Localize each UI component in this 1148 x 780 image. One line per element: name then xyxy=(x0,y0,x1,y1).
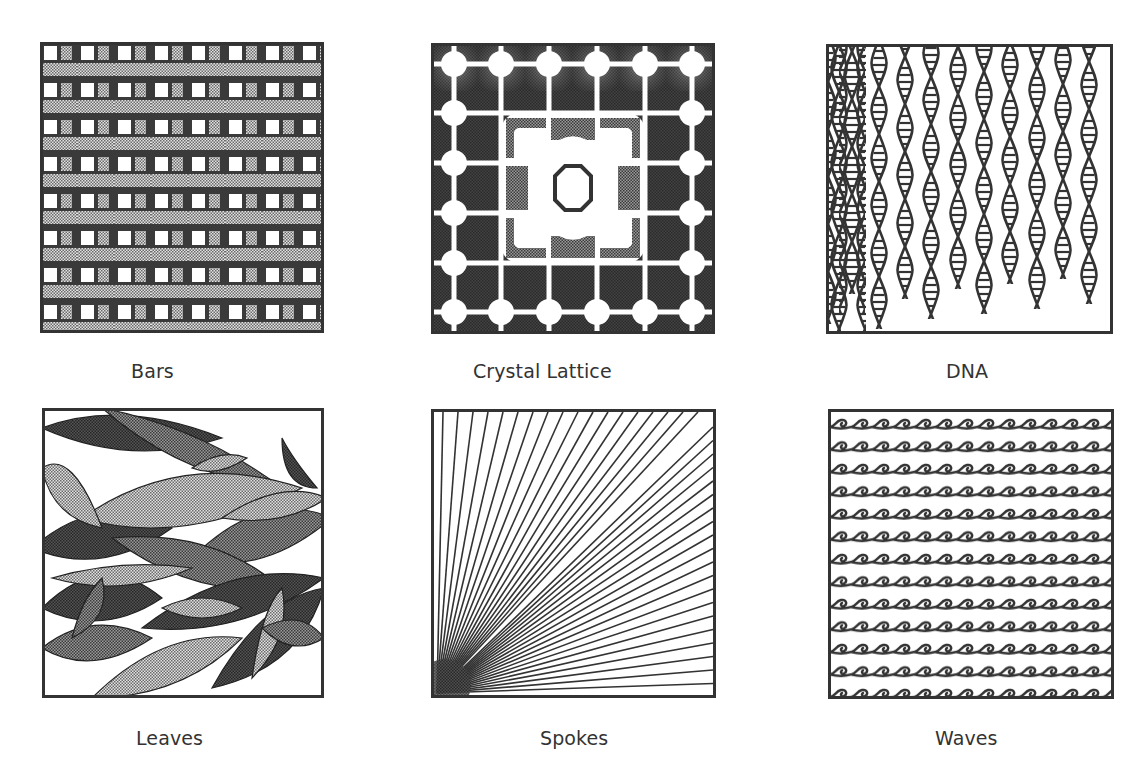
crystal-lattice-label: Crystal Lattice xyxy=(473,360,612,382)
waves-swatch xyxy=(828,409,1114,699)
bars-pattern-icon xyxy=(40,42,324,333)
leaves-pattern-icon xyxy=(42,408,324,698)
dna-pattern-icon xyxy=(826,44,1113,334)
bars-label: Bars xyxy=(131,360,174,382)
bars-swatch xyxy=(40,42,324,333)
crystal-lattice-pattern-icon xyxy=(431,43,715,334)
spokes-pattern-icon xyxy=(431,409,716,698)
spokes-label: Spokes xyxy=(540,727,608,749)
dna-label: DNA xyxy=(946,360,988,382)
waves-label: Waves xyxy=(935,727,998,749)
leaves-label: Leaves xyxy=(136,727,203,749)
spokes-swatch xyxy=(431,409,716,698)
crystal-lattice-swatch xyxy=(431,43,715,334)
leaves-swatch xyxy=(42,408,324,698)
dna-swatch xyxy=(826,44,1113,334)
waves-pattern-icon xyxy=(828,409,1114,699)
